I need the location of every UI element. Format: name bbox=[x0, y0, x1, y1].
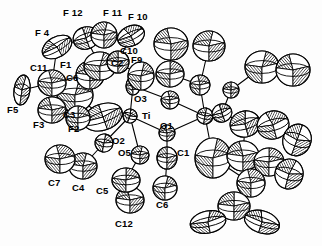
atom-label: F9 bbox=[131, 55, 143, 65]
ellipsoid-octant bbox=[39, 156, 60, 178]
ellipsoid-octant bbox=[140, 152, 153, 168]
atom-label: O2 bbox=[112, 136, 125, 146]
atom-label: F2 bbox=[68, 124, 80, 134]
atom-label: C6 bbox=[156, 200, 169, 210]
atom-label: O1 bbox=[160, 121, 173, 131]
thermal-ellipsoid bbox=[186, 71, 214, 99]
atom-label: C1 bbox=[177, 148, 190, 158]
atom-label: F 11 bbox=[103, 8, 122, 18]
ellipsoid-octant bbox=[156, 131, 167, 144]
thermal-ellipsoid bbox=[157, 87, 182, 112]
atom-label: F 10 bbox=[128, 12, 148, 22]
ellipsoid-octant bbox=[187, 43, 209, 67]
atom-label: C6 bbox=[66, 73, 79, 83]
thermal-ellipsoid bbox=[269, 48, 317, 93]
thermal-ellipsoid bbox=[127, 142, 152, 167]
atom-label: C2 bbox=[111, 58, 124, 68]
atom-label: C3 bbox=[63, 110, 76, 120]
atom-label: C5 bbox=[96, 186, 109, 196]
atom-label: O5 bbox=[118, 148, 131, 158]
atom-label: O3 bbox=[134, 94, 147, 104]
ellipsoid-octant bbox=[157, 98, 170, 112]
atom-label: F 4 bbox=[35, 28, 49, 38]
atom-label: Ti bbox=[142, 111, 151, 121]
thermal-ellipsoid bbox=[147, 22, 195, 67]
ellipsoid-octant bbox=[231, 87, 242, 101]
ellipsoid-octant bbox=[153, 156, 167, 174]
ellipsoid-octant bbox=[186, 83, 200, 99]
ellipsoid-octant bbox=[220, 88, 231, 101]
ellipsoid-octant bbox=[183, 220, 211, 242]
atom-label: F5 bbox=[7, 105, 19, 115]
ellipsoid-octant bbox=[167, 130, 178, 144]
atom-label: F3 bbox=[33, 120, 45, 130]
ellipsoid-octant bbox=[238, 64, 262, 90]
thermal-ellipsoid bbox=[187, 25, 232, 67]
atom-label: C4 bbox=[72, 183, 85, 193]
atom-label: C12 bbox=[115, 219, 133, 229]
thermal-ellipsoid bbox=[150, 56, 189, 92]
ortep-figure: F 12F 11F 10F 4C10C11F1C2F9C6F5O3TiC3F3F… bbox=[0, 0, 322, 246]
atom-label: C7 bbox=[48, 178, 61, 188]
ellipsoid-octant bbox=[110, 197, 130, 218]
atom-label: F1 bbox=[60, 60, 72, 70]
atom-label: C11 bbox=[30, 63, 48, 73]
atom-label: F 12 bbox=[63, 8, 83, 18]
thermal-ellipsoid bbox=[220, 79, 242, 101]
ellipsoid-octant bbox=[188, 154, 213, 186]
